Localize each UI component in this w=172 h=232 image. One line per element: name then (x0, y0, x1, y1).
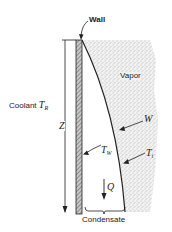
wall-temp-label: TW (101, 145, 112, 156)
tw-leader-arrowhead (83, 151, 89, 156)
vapor-label: Vapor (120, 72, 141, 80)
wall-leader-arrowhead (79, 34, 84, 40)
coolant-temp-symbol: TR (39, 99, 48, 110)
wall-leader (81, 21, 88, 36)
condensate-label: Condensate (82, 216, 125, 224)
tw-leader (86, 145, 101, 153)
z-arrowhead (63, 206, 68, 213)
film-w-label: W (144, 114, 152, 124)
heat-flow-q-label: Q (107, 182, 114, 192)
coolant-label: Coolant TR (9, 100, 48, 111)
q-arrowhead (102, 193, 107, 200)
height-z-label: Z (59, 121, 65, 131)
interface-temp-label: Ti (146, 148, 153, 159)
wall-bar (76, 40, 82, 214)
condensate-brace (85, 207, 125, 214)
wall-label: Wall (89, 16, 105, 24)
coolant-text: Coolant (9, 101, 37, 110)
